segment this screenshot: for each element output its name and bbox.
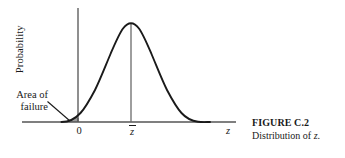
y-axis-label: Probability <box>15 7 26 91</box>
annotation-line-2: failure <box>21 101 48 112</box>
x-tick-label-zero: 0 <box>73 126 85 137</box>
zbar-letter: z <box>130 126 134 137</box>
caption-subtitle-prefix: Distribution of <box>252 130 314 141</box>
caption-subtitle-suffix: . <box>318 130 321 141</box>
x-tick-label-zbar: z <box>125 125 139 138</box>
x-axis-label: z <box>222 126 234 137</box>
caption-subtitle: Distribution of z. <box>252 130 344 142</box>
caption-title: FIGURE C.2 <box>252 117 344 129</box>
annotation-leader-line <box>48 102 71 122</box>
annotation-line-1: Area of <box>16 89 48 100</box>
area-of-failure-annotation: Area offailure <box>2 89 48 112</box>
normal-distribution-curve <box>62 23 211 122</box>
figure-container: Probability Area offailure 0 z z FIGURE … <box>0 0 345 158</box>
figure-caption: FIGURE C.2 Distribution of z. <box>252 117 344 142</box>
